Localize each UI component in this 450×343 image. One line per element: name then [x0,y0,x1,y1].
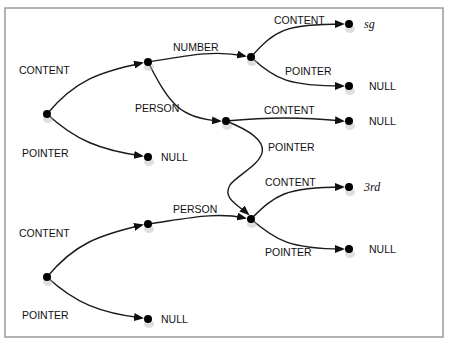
node-dot [345,183,353,191]
node-dot [222,117,230,125]
node-value-label: sg [364,17,375,31]
edge-label: POINTER [265,246,312,258]
diagram-frame [5,8,443,337]
node-dot [247,215,255,223]
node-value-label: NULL [369,115,396,127]
edge-label: CONTENT [19,64,70,76]
node-value-label: NULL [369,80,396,92]
edge-label: CONTENT [274,14,325,26]
node-dot [43,110,51,118]
edge-label: PERSON [173,203,217,215]
edge-label: CONTENT [265,176,316,188]
node-dot [247,53,255,61]
node-value-label: NULL [161,151,188,163]
edge-label: POINTER [268,141,315,153]
node-value-label: NULL [369,243,396,255]
edge-label: POINTER [285,65,332,77]
node-dot [144,220,152,228]
edge-label: NUMBER [173,41,219,53]
edge-label: CONTENT [19,227,70,239]
node-dot [144,315,152,323]
edge-label: CONTENT [264,104,315,116]
node-value-label: NULL [161,313,188,325]
edge-label: POINTER [22,309,69,321]
node-dot [345,117,353,125]
node-dot [144,153,152,161]
node-value-label: 3rd [363,180,381,194]
edge-label: POINTER [22,147,69,159]
linked-structure-diagram: CONTENTPOINTERNUMBERPERSONCONTENTPOINTER… [0,0,450,343]
node-dot [345,245,353,253]
edge-label: PERSON [135,102,179,114]
node-dot [345,20,353,28]
node-dot [43,273,51,281]
node-dot [144,58,152,66]
node-dot [345,82,353,90]
